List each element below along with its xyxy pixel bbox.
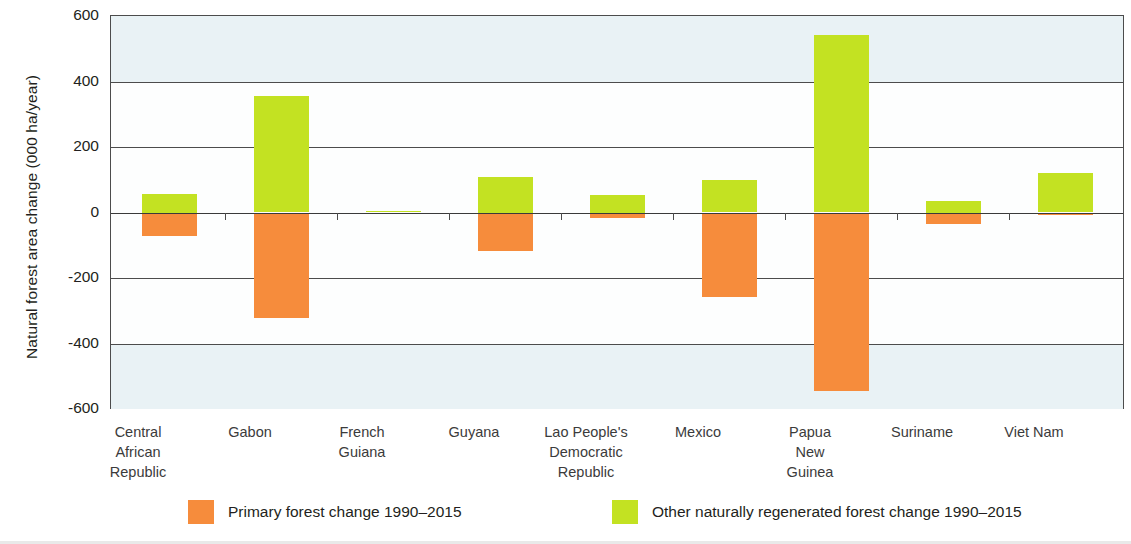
bar-other-forest <box>926 201 981 213</box>
legend-swatch-primary-forest-icon <box>188 500 214 524</box>
x-tick-mark <box>673 213 674 220</box>
legend-item-other-forest: Other naturally regenerated forest chang… <box>612 500 1022 524</box>
forest-area-change-chart: Natural forest area change (000 ha/year) <box>0 0 1131 544</box>
chart-legend: Primary forest change 1990–2015 Other na… <box>0 500 1131 530</box>
bar-primary-forest <box>142 213 197 237</box>
bar-primary-forest <box>478 213 533 251</box>
legend-swatch-other-forest-icon <box>612 500 638 524</box>
x-tick-label-french-guiana: French Guiana <box>309 422 415 462</box>
x-tick-mark <box>449 213 450 220</box>
x-tick-label-gabon: Gabon <box>197 422 303 442</box>
bar-other-forest <box>1038 173 1093 212</box>
bar-primary-forest <box>254 213 309 319</box>
zero-axis-line <box>111 213 1123 214</box>
bar-other-forest <box>814 35 869 213</box>
x-tick-mark <box>785 213 786 220</box>
bar-primary-forest <box>702 213 757 298</box>
x-tick-label-lao-pdr: Lao People's Democratic Republic <box>527 422 645 482</box>
x-tick-mark <box>1009 213 1010 220</box>
x-tick-label-guyana: Guyana <box>421 422 527 442</box>
x-tick-label-viet-nam: Viet Nam <box>981 422 1087 442</box>
y-tick-label-m200: -200 <box>19 268 99 286</box>
legend-label-other-forest: Other naturally regenerated forest chang… <box>652 503 1022 521</box>
bar-other-forest <box>702 180 757 212</box>
x-tick-mark <box>897 213 898 220</box>
y-tick-label-m400: -400 <box>19 334 99 352</box>
x-tick-mark <box>225 213 226 220</box>
x-tick-label-suriname: Suriname <box>869 422 975 442</box>
y-tick-label-400: 400 <box>19 72 99 90</box>
x-tick-label-papua-new-guinea: Papua New Guinea <box>757 422 863 482</box>
bar-other-forest <box>254 96 309 213</box>
x-tick-label-mexico: Mexico <box>645 422 751 442</box>
y-tick-label-200: 200 <box>19 137 99 155</box>
x-tick-mark <box>561 213 562 220</box>
bar-primary-forest <box>926 213 981 225</box>
x-tick-label-central-african-republic: Central African Republic <box>85 422 191 482</box>
legend-label-primary-forest: Primary forest change 1990–2015 <box>228 503 462 521</box>
y-tick-label-0: 0 <box>19 203 99 221</box>
x-tick-mark <box>337 213 338 220</box>
legend-item-primary-forest: Primary forest change 1990–2015 <box>188 500 462 524</box>
bar-other-forest <box>590 195 645 213</box>
y-tick-label-600: 600 <box>19 6 99 24</box>
bar-primary-forest <box>814 213 869 392</box>
plot-area <box>110 15 1124 409</box>
bar-other-forest <box>478 177 533 213</box>
bar-other-forest <box>142 194 197 213</box>
y-tick-label-m600: -600 <box>19 399 99 417</box>
